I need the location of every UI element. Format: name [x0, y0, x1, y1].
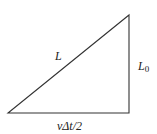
- horizontal-side-label: vΔt/2: [57, 120, 82, 132]
- vertical-side-label: L0: [138, 60, 149, 74]
- triangle-diagram: [0, 0, 157, 134]
- vertical-side-subscript: 0: [145, 64, 150, 74]
- hypotenuse-label: L: [55, 50, 62, 62]
- right-triangle: [8, 15, 129, 113]
- vertical-side-symbol: L: [138, 59, 145, 73]
